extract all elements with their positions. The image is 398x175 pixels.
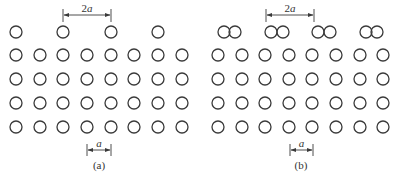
arrow-left-icon [88, 148, 94, 152]
atom-circle [176, 97, 188, 109]
atom-circle [34, 73, 46, 85]
atom-circle [212, 97, 224, 109]
dimension-2a: 2a [63, 2, 111, 22]
atom-circle [330, 121, 342, 133]
arrow-right-icon [307, 148, 313, 152]
atom-circle [81, 73, 93, 85]
atom-circle [152, 73, 164, 85]
atom-circle [128, 73, 140, 85]
bulk-row [10, 97, 188, 109]
atom-circle [212, 73, 224, 85]
atom-circle [105, 26, 117, 38]
atom-circle [283, 97, 295, 109]
atom-circle [330, 97, 342, 109]
atom-circle [81, 121, 93, 133]
dimension-label-a: a [299, 137, 305, 149]
atom-circle [312, 26, 324, 38]
atom-circle [57, 97, 69, 109]
atom-circle [306, 73, 318, 85]
bulk-row [212, 73, 389, 85]
atom-circle [330, 73, 342, 85]
atom-circle [306, 97, 318, 109]
surface-row [218, 26, 383, 38]
atom-circle [212, 49, 224, 61]
atom-circle [176, 121, 188, 133]
atom-circle [10, 49, 22, 61]
atom-circle [354, 97, 366, 109]
panel-caption: (a) [93, 159, 106, 172]
atom-circle [377, 97, 389, 109]
atom-circle [10, 121, 22, 133]
dimension-label-2a: 2a [82, 2, 94, 14]
atom-circle [105, 97, 117, 109]
panel-caption: (b) [295, 159, 308, 172]
atom-circle [259, 121, 271, 133]
atom-circle [236, 97, 248, 109]
atom-circle [354, 121, 366, 133]
atom-circle [377, 121, 389, 133]
atom-circle [10, 26, 22, 38]
atom-circle [283, 73, 295, 85]
atom-circle [57, 26, 69, 38]
bulk-row [10, 121, 188, 133]
atom-circle [236, 73, 248, 85]
arrow-left-icon [267, 13, 273, 17]
atom-circle [10, 97, 22, 109]
atom-circle [152, 49, 164, 61]
atom-circle [283, 49, 295, 61]
atom-circle [354, 73, 366, 85]
atom-circle [306, 49, 318, 61]
atom-circle [152, 121, 164, 133]
atom-circle [128, 121, 140, 133]
bulk-row [212, 121, 389, 133]
atom-circle [128, 97, 140, 109]
atom-circle [371, 26, 383, 38]
dimension-2a: 2a [266, 2, 314, 22]
bulk-row [10, 73, 188, 85]
atom-circle [354, 49, 366, 61]
dimension-a: a [87, 137, 111, 156]
atom-circle [259, 73, 271, 85]
atom-circle [229, 26, 241, 38]
panel-b: 2aa(b) [212, 2, 389, 172]
atom-circle [10, 73, 22, 85]
atom-circle [306, 121, 318, 133]
atom-circle [57, 121, 69, 133]
atom-circle [283, 121, 295, 133]
atom-circle [218, 26, 230, 38]
atom-circle [377, 73, 389, 85]
atom-circle [152, 26, 164, 38]
bulk-row [10, 49, 188, 61]
atom-circle [34, 49, 46, 61]
atom-circle [360, 26, 372, 38]
atom-circle [176, 49, 188, 61]
atom-circle [330, 49, 342, 61]
bulk-row [212, 97, 389, 109]
atom-circle [57, 49, 69, 61]
atom-circle [259, 97, 271, 109]
atom-circle [212, 121, 224, 133]
panel-a: 2aa(a) [10, 2, 188, 172]
dimension-a: a [290, 137, 313, 156]
atom-circle [277, 26, 289, 38]
dimension-label-a: a [96, 137, 102, 149]
atom-circle [81, 49, 93, 61]
atom-circle [236, 121, 248, 133]
atom-circle [377, 49, 389, 61]
arrow-left-icon [64, 13, 70, 17]
arrow-right-icon [105, 13, 111, 17]
arrow-right-icon [308, 13, 314, 17]
dimension-label-2a: 2a [285, 2, 297, 14]
diagram-svg: 2aa(a) 2aa(b) [0, 0, 398, 175]
atom-circle [259, 49, 271, 61]
surface-row [10, 26, 164, 38]
atom-circle [57, 73, 69, 85]
atom-circle [105, 121, 117, 133]
atom-circle [81, 97, 93, 109]
reconstruction-diagram: 2aa(a) 2aa(b) [0, 0, 398, 175]
atom-circle [128, 49, 140, 61]
atom-circle [324, 26, 336, 38]
atom-circle [34, 97, 46, 109]
atom-circle [105, 49, 117, 61]
arrow-left-icon [291, 148, 297, 152]
